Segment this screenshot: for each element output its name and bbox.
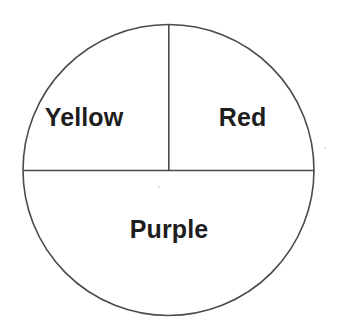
slice-label-purple: Purple xyxy=(24,217,314,242)
slice-label-red: Red xyxy=(170,105,315,130)
spinner-diagram: Yellow Red Purple xyxy=(0,0,337,329)
spinner-svg xyxy=(0,0,337,329)
slice-label-yellow: Yellow xyxy=(0,105,168,130)
